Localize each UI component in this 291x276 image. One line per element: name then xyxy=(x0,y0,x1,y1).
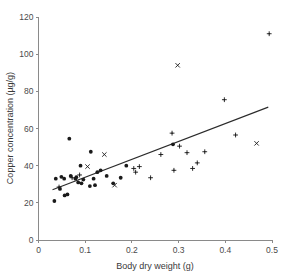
scatter-chart-figure: 02040608010012000.10.20.30.40.5 Body dry… xyxy=(0,0,291,276)
y-tick-label: 80 xyxy=(24,86,34,96)
x-tick-label: 0.1 xyxy=(79,245,91,255)
data-point-dot xyxy=(76,180,80,184)
data-point-cross xyxy=(148,175,153,180)
data-point-cross xyxy=(190,166,195,171)
data-point-dot xyxy=(66,193,70,197)
data-point-dot xyxy=(105,174,109,178)
axis-ticks xyxy=(36,17,273,243)
data-point-cross xyxy=(177,144,182,149)
plot-area: 02040608010012000.10.20.30.40.5 Body dry… xyxy=(0,0,291,276)
data-point-dot xyxy=(54,177,58,181)
data-point-dot xyxy=(99,168,103,172)
data-point-dot xyxy=(67,137,71,141)
data-point-dot xyxy=(80,181,84,185)
data-point-cross xyxy=(267,31,272,36)
x-tick-label: 0.4 xyxy=(219,245,231,255)
y-tick-label: 100 xyxy=(19,49,33,59)
x-axis-label: Body dry weight (g) xyxy=(116,261,194,271)
data-point-cross xyxy=(172,168,177,173)
fit-line xyxy=(53,107,269,190)
data-point-dot xyxy=(92,177,96,181)
x-tick-label: 0.3 xyxy=(173,245,185,255)
regression-line xyxy=(53,107,269,190)
y-tick-label: 20 xyxy=(24,198,34,208)
data-point-x xyxy=(102,152,106,156)
data-point-dot xyxy=(93,183,97,187)
data-point-x xyxy=(175,63,179,67)
x-tick-label: 0 xyxy=(36,245,41,255)
data-point-x xyxy=(254,141,258,145)
data-point-dot xyxy=(88,184,92,188)
data-point-dot xyxy=(119,176,123,180)
data-point-cross xyxy=(158,152,163,157)
y-tick-label: 0 xyxy=(29,235,34,245)
y-tick-label: 60 xyxy=(24,124,34,134)
data-point-dot xyxy=(74,175,78,179)
data-point-dot xyxy=(79,164,83,168)
data-point-cross xyxy=(170,131,175,136)
data-point-dot xyxy=(58,187,62,191)
data-point-dot xyxy=(62,177,66,181)
data-point-dot xyxy=(52,199,56,203)
axis-tick-labels: 02040608010012000.10.20.30.40.5 xyxy=(19,12,278,255)
y-tick-label: 120 xyxy=(19,12,33,22)
y-tick-label: 40 xyxy=(24,161,34,171)
data-point-x xyxy=(85,164,89,168)
data-point-dot xyxy=(124,164,128,168)
data-point-dot xyxy=(171,142,175,146)
x-tick-label: 0.2 xyxy=(126,245,138,255)
data-point-dot xyxy=(89,150,93,154)
data-point-cross xyxy=(137,164,142,169)
data-point-cross xyxy=(202,149,207,154)
data-point-dot xyxy=(95,170,99,174)
data-point-cross xyxy=(233,133,238,138)
data-point-cross xyxy=(185,150,190,155)
data-point-cross xyxy=(222,97,227,102)
x-tick-label: 0.5 xyxy=(266,245,278,255)
y-axis-label: Copper concentration (µg/g) xyxy=(5,72,15,184)
data-point-dot xyxy=(81,178,85,182)
data-point-cross xyxy=(195,160,200,165)
axes xyxy=(39,17,273,240)
